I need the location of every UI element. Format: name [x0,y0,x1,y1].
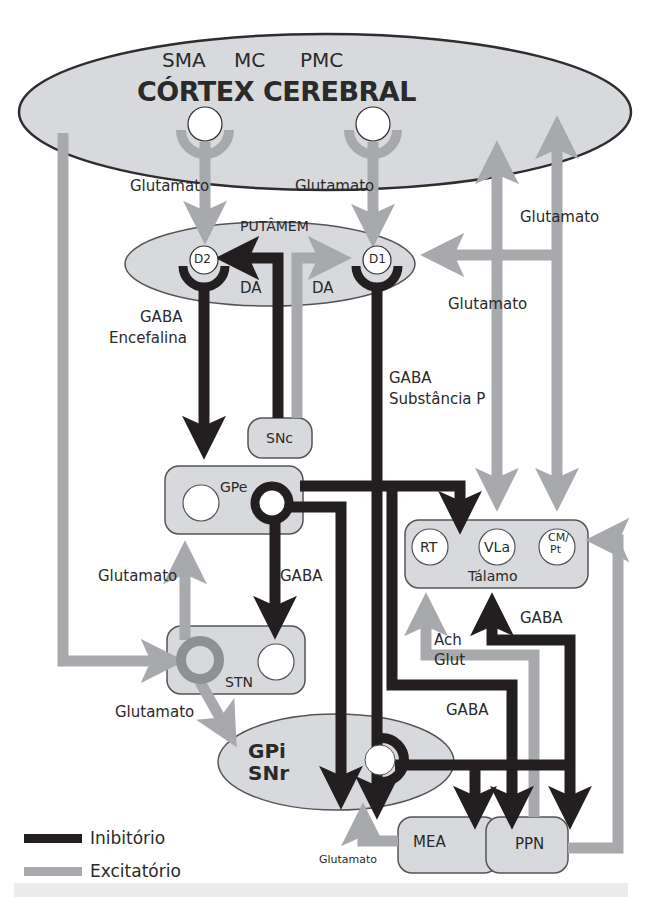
label-gaba-direct: GABA [389,370,431,387]
legend-label-inhibitory: Inibitório [90,829,165,848]
gpe-label: GPe [220,479,247,496]
label-glutamato-sma: Glutamato [130,178,209,195]
label-da-right: DA [312,280,334,297]
label-glutamato-stn-gpi: Glutamato [115,704,194,721]
label-ach: Ach [434,632,462,649]
label-gaba-indirect: GABA [140,309,182,326]
snr-label: SNr [248,762,289,784]
label-substancia-p: Substância P [389,391,485,408]
legend-label-excitatory: Excitatório [90,862,181,881]
stn-label: STN [225,674,253,691]
thalamus-vla-label: VLa [484,539,510,556]
legend-swatch-inhibitory [24,834,82,843]
footer-band [14,883,628,897]
ppn-label: PPN [515,836,544,853]
thalamus-rt-label: RT [420,539,437,556]
stn-neuron-right [258,644,294,680]
cortex-area-pmc: PMC [300,49,343,71]
snc-label: SNc [266,430,293,447]
cortex-area-sma: SMA [162,49,206,71]
label-gaba-gpe-stn: GABA [280,568,322,585]
label-glutamato-stn-gpe: Glutamato [98,568,177,585]
thalamus-label: Tálamo [468,568,518,585]
label-glutamato-right-top: Glutamato [520,209,599,226]
mea-label: MEA [413,834,446,851]
label-da-left: DA [240,280,262,297]
receptor-d2-label: D2 [194,252,211,266]
label-glutamato-right-mid: Glutamato [448,296,527,313]
gpi-label: GPi [248,740,286,762]
receptor-d1-label: D1 [369,252,386,266]
gpe-neuron-left [183,485,219,521]
label-glutamato-pmc: Glutamato [295,178,374,195]
cortex-area-mc: MC [234,49,265,71]
basal-ganglia-diagram [0,0,646,897]
thalamus-pt-label: Pt [550,544,561,556]
label-glutamato-mea: Glutamato [319,853,377,866]
label-glut: Glut [434,652,465,669]
label-gaba-ppn-thal: GABA [520,610,562,627]
gpe-neuron-right [255,486,289,520]
legend-swatch-excitatory [24,867,82,876]
label-gaba-gpi-ppn: GABA [446,702,488,719]
putamen-label: PUTÂMEM [240,218,309,235]
label-encefalina: Encefalina [109,330,187,347]
cortex-title: CÓRTEX CEREBRAL [137,77,416,107]
